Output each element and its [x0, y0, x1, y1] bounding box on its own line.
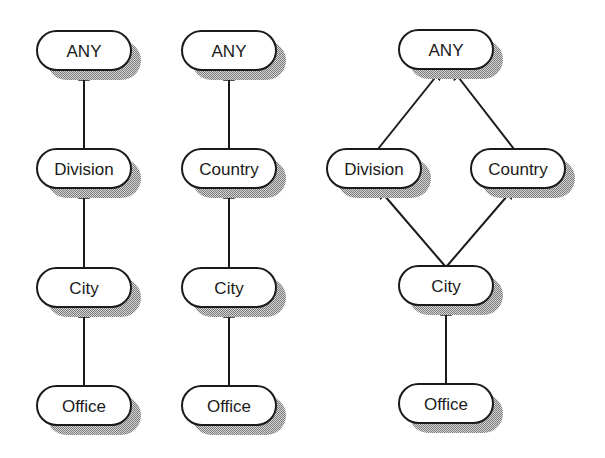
edge-d3-country-to-d3-any	[452, 69, 514, 149]
node-d3-any: ANY	[399, 30, 493, 69]
node-label: ANY	[212, 42, 247, 61]
node-d3-country: Country	[471, 149, 565, 188]
node-label: City	[214, 279, 244, 298]
node-d1-city: City	[37, 268, 131, 307]
node-label: City	[69, 279, 99, 298]
node-d1-division: Division	[37, 149, 131, 188]
diagram-hierarchy-division: ANYDivisionCityOffice	[37, 31, 141, 435]
diagram-lattice-combined: ANYDivisionCountryCityOffice	[327, 30, 575, 433]
concept-hierarchy-diagrams: ANYDivisionCityOfficeANYCountryCityOffic…	[0, 0, 605, 458]
node-d2-office: Office	[182, 386, 276, 425]
node-label: Office	[207, 397, 251, 416]
edge-d3-division-to-d3-any	[378, 69, 442, 149]
node-d1-any: ANY	[37, 31, 131, 70]
node-d3-city: City	[399, 266, 493, 305]
edges-layer	[84, 69, 514, 386]
node-label: Country	[199, 160, 259, 179]
node-d2-country: Country	[182, 149, 276, 188]
node-label: City	[431, 277, 461, 296]
edge-d3-city-to-d3-division	[378, 188, 445, 266]
diagram-edges-lattice-combined	[378, 69, 514, 384]
node-d3-office: Office	[399, 384, 493, 423]
node-d1-office: Office	[37, 386, 131, 425]
node-label: Country	[488, 160, 548, 179]
node-d3-division: Division	[327, 149, 421, 188]
diagram-hierarchy-country: ANYCountryCityOffice	[182, 31, 286, 435]
nodes-layer: ANYDivisionCityOfficeANYCountryCityOffic…	[37, 30, 575, 435]
node-label: Office	[62, 397, 106, 416]
node-d2-any: ANY	[182, 31, 276, 70]
node-label: ANY	[67, 42, 102, 61]
node-d2-city: City	[182, 268, 276, 307]
node-label: ANY	[429, 41, 464, 60]
edge-d3-city-to-d3-country	[447, 188, 514, 266]
node-label: Division	[344, 160, 404, 179]
node-label: Division	[54, 160, 114, 179]
node-label: Office	[424, 395, 468, 414]
